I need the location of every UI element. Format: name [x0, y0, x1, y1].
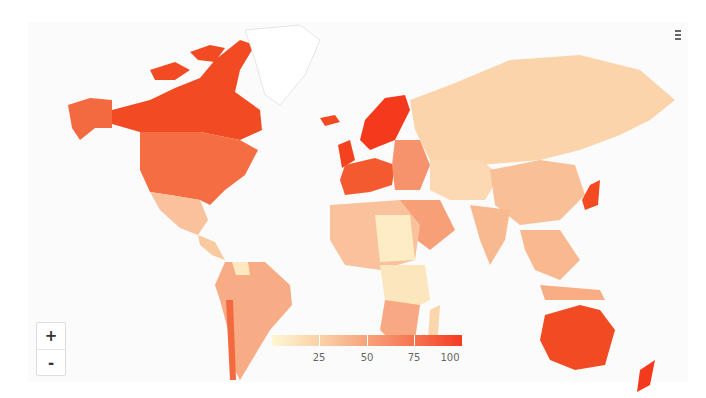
- region-india[interactable]: [470, 205, 510, 265]
- color-legend: 25 50 75 100: [272, 335, 462, 370]
- region-southeast-asia[interactable]: [520, 230, 580, 280]
- zoom-in-button[interactable]: +: [37, 323, 65, 350]
- zoom-out-button[interactable]: -: [37, 350, 65, 376]
- hamburger-menu-icon[interactable]: [674, 30, 682, 44]
- region-japan[interactable]: [582, 180, 600, 210]
- region-central-asia[interactable]: [430, 160, 500, 200]
- region-alaska[interactable]: [68, 98, 112, 140]
- legend-tick-100: 100: [440, 352, 459, 363]
- legend-tick-75: 75: [408, 352, 421, 363]
- region-greenland[interactable]: [245, 25, 320, 105]
- region-central-america[interactable]: [198, 235, 225, 260]
- legend-tick-labels: 25 50 75 100: [272, 352, 462, 370]
- legend-gradient-bar: [272, 335, 462, 346]
- region-iceland[interactable]: [320, 115, 340, 126]
- region-canada[interactable]: [112, 40, 262, 140]
- zoom-control: + -: [36, 322, 66, 376]
- region-russia[interactable]: [410, 55, 675, 165]
- legend-divider: [414, 335, 415, 346]
- region-sahel[interactable]: [375, 215, 415, 262]
- legend-tick-50: 50: [361, 352, 374, 363]
- legend-divider: [367, 335, 368, 346]
- region-australia[interactable]: [540, 305, 615, 370]
- region-new-zealand[interactable]: [637, 360, 655, 392]
- legend-divider: [319, 335, 320, 346]
- legend-tick-25: 25: [313, 352, 326, 363]
- region-indonesia[interactable]: [540, 285, 605, 300]
